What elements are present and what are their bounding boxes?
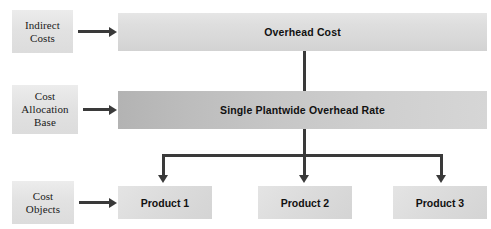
branch-drop-product-2 [303, 154, 306, 177]
arrow-right-icon-cost-allocation-base [109, 105, 117, 115]
cost-allocation-base-line-1: Cost [35, 90, 56, 102]
branch-drop-product-1 [162, 154, 165, 177]
arrow-down-icon-product-3 [436, 175, 446, 183]
indirect-costs-line-2: Costs [30, 32, 55, 44]
arrow-right-icon-cost-objects [109, 198, 117, 208]
label-box-cost-objects-text: Cost Objects [26, 190, 60, 216]
bar-single-plantwide-overhead-rate-label: Single Plantwide Overhead Rate [220, 104, 385, 116]
arrow-indirect-costs-to-overhead-cost-shaft [78, 30, 110, 33]
label-box-cost-allocation-base: Cost Allocation Base [12, 85, 78, 134]
label-box-indirect-costs: Indirect Costs [12, 10, 73, 53]
bar-overhead-cost-label: Overhead Cost [264, 26, 341, 38]
arrow-down-icon-product-1 [158, 175, 168, 183]
arrow-cost-objects-to-product-1-shaft [79, 201, 110, 204]
branch-stem [303, 129, 306, 156]
bar-single-plantwide-overhead-rate: Single Plantwide Overhead Rate [118, 91, 487, 129]
box-product-2: Product 2 [258, 186, 352, 219]
arrow-right-icon-indirect-costs [109, 27, 117, 37]
box-product-1: Product 1 [118, 186, 212, 219]
cost-allocation-base-line-2: Allocation [21, 103, 68, 115]
box-product-1-label: Product 1 [141, 197, 189, 209]
cost-allocation-base-line-3: Base [34, 116, 56, 128]
connector-overhead-cost-to-rate [303, 51, 306, 91]
box-product-2-label: Product 2 [281, 197, 329, 209]
cost-objects-line-1: Cost [33, 190, 54, 202]
label-box-indirect-costs-text: Indirect Costs [25, 19, 60, 45]
box-product-3: Product 3 [393, 186, 487, 219]
label-box-cost-objects: Cost Objects [12, 181, 74, 224]
indirect-costs-line-1: Indirect [25, 19, 60, 31]
branch-drop-product-3 [440, 154, 443, 177]
box-product-3-label: Product 3 [416, 197, 464, 209]
arrow-down-icon-product-2 [299, 175, 309, 183]
bar-overhead-cost: Overhead Cost [118, 13, 487, 51]
cost-objects-line-2: Objects [26, 203, 60, 215]
label-box-cost-allocation-base-text: Cost Allocation Base [21, 90, 68, 129]
arrow-cost-allocation-base-to-rate-shaft [83, 108, 110, 111]
cost-allocation-diagram: Indirect Costs Cost Allocation Base Cost… [0, 0, 491, 229]
